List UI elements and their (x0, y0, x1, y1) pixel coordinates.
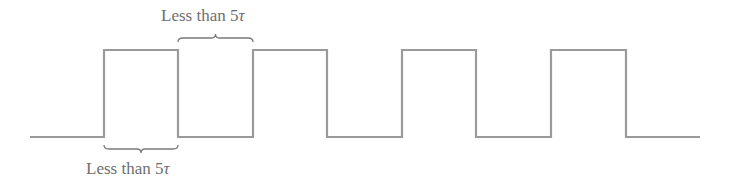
bottom-brace (104, 145, 178, 153)
top-brace (178, 34, 253, 42)
top-label: Less than 5τ (161, 6, 245, 26)
bottom-label: Less than 5τ (86, 159, 170, 179)
top-label-text: Less than 5 (161, 6, 238, 25)
square-waveform (30, 50, 700, 137)
tau-symbol: τ (163, 159, 169, 178)
square-wave-diagram: Less than 5τ Less than 5τ (0, 0, 732, 187)
bottom-label-text: Less than 5 (86, 159, 163, 178)
tau-symbol: τ (238, 6, 244, 25)
